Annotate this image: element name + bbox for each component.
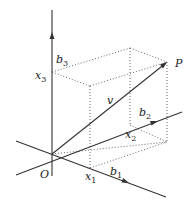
vector-diagram: b3 x3 v P b2 x2 O x1 b1	[0, 0, 193, 205]
b1-arrow-icon	[122, 178, 130, 183]
vector-v	[52, 63, 166, 154]
label-b2: b2	[139, 106, 151, 121]
label-origin: O	[40, 168, 49, 181]
label-v: v	[107, 94, 114, 107]
label-b1: b1	[110, 165, 122, 180]
b3-arrow-icon	[50, 32, 55, 39]
label-b3: b3	[56, 53, 68, 68]
b2-arrow-icon	[150, 121, 158, 126]
label-x3: x3	[35, 69, 46, 84]
b1-axis	[16, 141, 166, 197]
label-p: P	[174, 57, 183, 70]
label-x1: x1	[85, 170, 96, 185]
